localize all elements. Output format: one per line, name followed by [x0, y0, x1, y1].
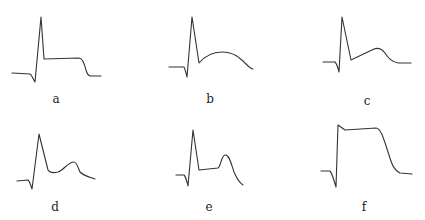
- waveform-canvas: [0, 0, 425, 220]
- waveform-e: [176, 130, 243, 186]
- panel-label-a: a: [52, 93, 59, 105]
- panel-label-f: f: [362, 201, 366, 213]
- panel-label-e: e: [205, 201, 212, 213]
- panel-label-c: c: [364, 95, 371, 107]
- waveform-c: [323, 17, 411, 72]
- waveform-d: [17, 134, 95, 189]
- waveform-a: [12, 17, 101, 82]
- panel-label-d: d: [51, 201, 59, 213]
- panel-label-b: b: [206, 93, 214, 105]
- waveform-f: [321, 125, 412, 187]
- waveform-b: [169, 17, 253, 77]
